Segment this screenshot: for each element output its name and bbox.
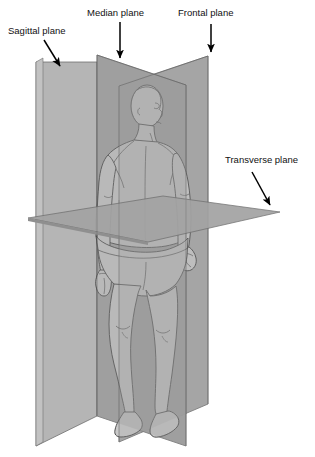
label-transverse-plane-text: Transverse plane — [225, 154, 298, 165]
label-frontal-plane-text: Frontal plane — [178, 7, 233, 18]
frontal-plane-overlay — [119, 56, 208, 442]
anatomical-planes-diagram: Sagittal plane Median plane Frontal plan… — [0, 0, 315, 457]
sagittal-plane-side-face — [36, 58, 43, 446]
label-median-plane-text: Median plane — [87, 7, 144, 18]
diagram-canvas: Sagittal plane Median plane Frontal plan… — [0, 0, 315, 457]
label-sagittal-plane-text: Sagittal plane — [8, 25, 66, 36]
sagittal-plane — [36, 62, 97, 446]
